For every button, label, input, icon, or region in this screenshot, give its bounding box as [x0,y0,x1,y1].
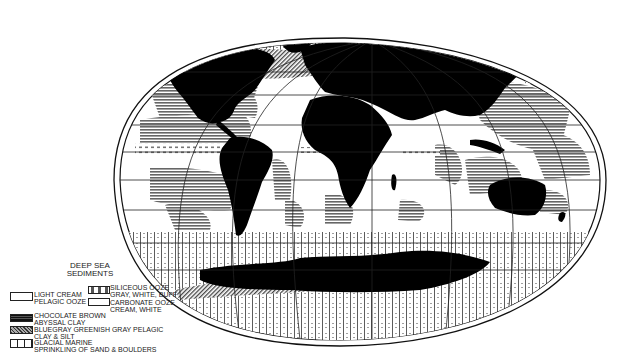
legend-line: PELAGIC OOZE [34,298,86,305]
legend-swatch-carbonate [88,298,110,306]
legend-swatch-clay-silt [10,326,33,334]
legend-line: CREAM, WHITE [110,306,175,313]
legend-label-carbonate: CARBONATE OOZE CREAM, WHITE [110,299,175,313]
legend-line: LIGHT CREAM [34,291,86,298]
legend-line: GLACIAL MARINE [34,339,157,346]
legend-title: DEEP SEA SEDIMENTS [60,262,120,278]
legend-swatch-glacial-marine [10,339,33,348]
legend-line: CARBONATE OOZE [110,299,175,306]
legend-label-siliceous: SILICEOUS OOZE GRAY, WHITE, BUFF [110,284,177,298]
legend-label-light-cream: LIGHT CREAM PELAGIC OOZE [34,291,86,305]
legend-line: ABYSSAL CLAY [34,319,106,326]
legend-title-line2: SEDIMENTS [60,270,120,278]
legend-line: GRAY, WHITE, BUFF [110,291,177,298]
legend-line: SPRINKLING OF SAND & BOULDERS [34,346,157,353]
legend-label-glacial-marine: GLACIAL MARINE SPRINKLING OF SAND & BOUL… [34,339,157,353]
legend-line: BLUEGRAY GREENISH GRAY PELAGIC [34,326,163,333]
legend-swatch-abyssal-clay [10,314,33,322]
world-sediment-map [0,0,617,361]
legend-line: SILICEOUS OOZE [110,284,177,291]
legend-label-clay-silt: BLUEGRAY GREENISH GRAY PELAGIC CLAY & SI… [34,326,163,340]
legend-line: CHOCOLATE BROWN [34,312,106,319]
legend-swatch-siliceous [88,286,110,294]
legend-label-abyssal-clay: CHOCOLATE BROWN ABYSSAL CLAY [34,312,106,326]
legend-swatch-light-cream [10,292,33,301]
